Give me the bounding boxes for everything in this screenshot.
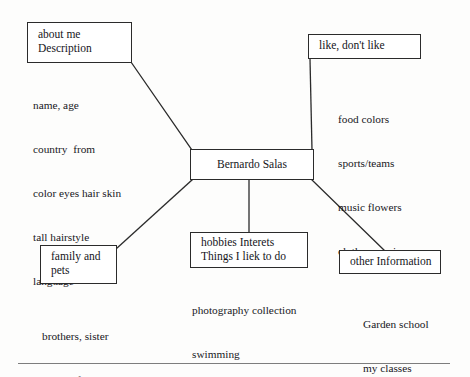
node-likes-dislikes-line-1: like, don't like	[319, 39, 412, 53]
detail-family-and-pets: brothers, sister mother father dog cat r…	[42, 300, 109, 377]
detail-other-information: Garden school my classes	[363, 288, 429, 377]
node-family-and-pets-line-2: pets	[51, 264, 108, 278]
connector-likes-to-center	[310, 59, 312, 150]
detail-other-information-line-2: my classes	[363, 361, 429, 376]
node-center-person[interactable]: Bernardo Salas	[190, 149, 314, 180]
detail-likes-dislikes-line-3: music flowers	[338, 200, 405, 215]
detail-family-and-pets-line-2: mother father	[42, 373, 109, 377]
node-other-information-line-1: other Information	[350, 255, 432, 269]
detail-about-me-line-3: color eyes hair skin	[33, 186, 121, 201]
node-other-information[interactable]: other Information	[339, 250, 441, 274]
connector-center-to-family	[117, 180, 192, 248]
detail-likes-dislikes-line-2: sports/teams	[338, 156, 405, 171]
detail-hobbies-interests-line-1: photography collection	[192, 303, 296, 318]
node-about-me-line-1: about me	[38, 28, 123, 42]
detail-other-information-line-1: Garden school	[363, 317, 429, 332]
connector-about-to-center	[131, 62, 192, 150]
detail-about-me-line-1: name, age	[33, 98, 121, 113]
detail-hobbies-interests-line-2: swimming	[192, 347, 296, 362]
node-center-person-label: Bernardo Salas	[217, 158, 287, 172]
node-family-and-pets[interactable]: family and pets	[40, 245, 117, 284]
detail-likes-dislikes-line-1: food colors	[338, 112, 405, 127]
node-family-and-pets-line-1: family and	[51, 250, 108, 264]
node-hobbies-interests-line-1: hobbies Interets	[201, 236, 299, 250]
detail-hobbies-interests: photography collection swimming ride my …	[192, 274, 296, 377]
detail-family-and-pets-line-1: brothers, sister	[42, 329, 109, 344]
node-hobbies-interests-line-2: Things I liek to do	[201, 250, 299, 264]
mind-map-canvas: about me Description name, age country f…	[0, 0, 470, 377]
node-hobbies-interests[interactable]: hobbies Interets Things I liek to do	[190, 232, 308, 268]
detail-about-me-line-2: country from	[33, 142, 121, 157]
node-about-me[interactable]: about me Description	[27, 22, 132, 63]
detail-about-me-line-4: tall hairstyle	[33, 230, 121, 245]
node-likes-dislikes[interactable]: like, don't like	[308, 34, 421, 59]
node-about-me-line-2: Description	[38, 42, 123, 56]
